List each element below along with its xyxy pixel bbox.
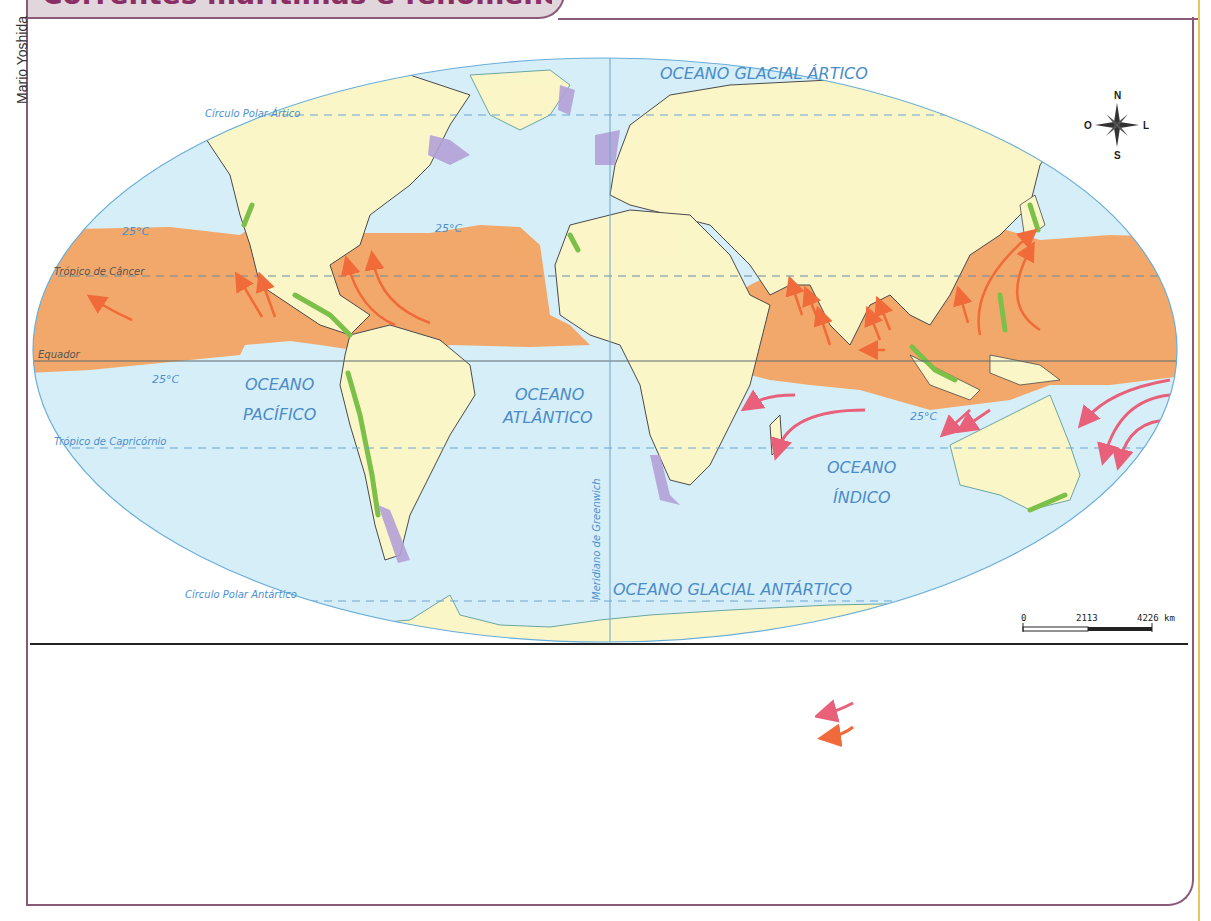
isotherm-label: 25°C bbox=[435, 222, 462, 235]
pink-arrow-icon bbox=[825, 703, 853, 714]
label-arctic-circle: Círculo Polar Ártico bbox=[205, 107, 300, 119]
label-indian-ocean-2: ÍNDICO bbox=[833, 488, 891, 507]
label-tropic-cancer: Trópico de Câncer bbox=[54, 266, 145, 277]
page-title: Correntes marítimas e fenômenos climátic… bbox=[42, 0, 552, 11]
map-divider bbox=[30, 643, 1188, 645]
label-indian-ocean-1: OCEANO bbox=[827, 458, 896, 477]
label-antarctic-circle: Círculo Polar Antártico bbox=[185, 589, 297, 600]
orange-arrow-icon bbox=[829, 727, 853, 737]
isotherm-label: 25°C bbox=[152, 373, 179, 386]
page-edge-stripe bbox=[1198, 0, 1200, 921]
compass-west: O bbox=[1084, 120, 1092, 131]
label-equator: Equador bbox=[38, 349, 81, 360]
compass-north: N bbox=[1114, 90, 1121, 101]
label-pacific-ocean-1: OCEANO bbox=[245, 375, 314, 394]
isotherm-label: 25°C bbox=[910, 410, 937, 423]
compass-south: S bbox=[1114, 150, 1121, 161]
compass-rose: N S O L bbox=[1084, 90, 1149, 161]
scale-bar: 0 2113 4226 km bbox=[1021, 613, 1175, 632]
compass-east: L bbox=[1143, 120, 1149, 131]
label-atlantic-ocean-2: ATLÂNTICO bbox=[502, 408, 593, 427]
scale-start: 0 bbox=[1021, 613, 1026, 623]
label-arctic-ocean: OCEANO GLACIAL ÁRTICO bbox=[660, 64, 868, 83]
label-pacific-ocean-2: PACÍFICO bbox=[243, 405, 316, 424]
legend-arrows bbox=[815, 695, 865, 750]
image-credit: Mario Yoshida bbox=[14, 0, 30, 120]
isotherm-label: 25°C bbox=[122, 225, 149, 238]
label-tropic-capricorn: Trópico de Capricórnio bbox=[54, 436, 166, 447]
scale-mid: 2113 bbox=[1076, 613, 1098, 623]
label-antarctic-ocean: OCEANO GLACIAL ANTÁRTICO bbox=[613, 580, 852, 599]
label-atlantic-ocean-1: OCEANO bbox=[515, 385, 584, 404]
world-map: Círculo Polar Ártico Trópico de Câncer E… bbox=[30, 55, 1190, 645]
scale-end: 4226 km bbox=[1137, 613, 1175, 623]
label-greenwich: Meridiano de Greenwich bbox=[591, 478, 602, 600]
